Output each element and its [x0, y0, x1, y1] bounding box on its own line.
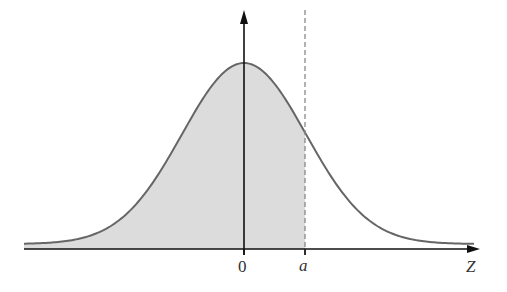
origin-label: 0: [238, 258, 247, 275]
y-axis-arrow-icon: [240, 10, 248, 24]
x-axis-arrow-icon: [467, 245, 480, 253]
a-label: a: [299, 257, 308, 274]
plot-canvas: [0, 0, 507, 292]
normal-distribution-diagram: 0 a Z: [0, 0, 507, 292]
z-axis-label: Z: [466, 258, 475, 275]
shaded-area-left-of-a: [24, 63, 305, 249]
